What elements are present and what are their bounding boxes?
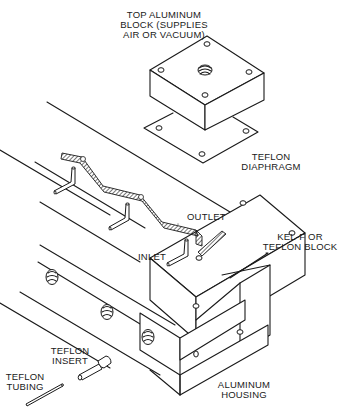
label-kelf-teflon-block: KEL-F OR TEFLON BLOCK bbox=[262, 232, 338, 252]
label-teflon-insert: TEFLON INSERT bbox=[50, 346, 90, 366]
flow-channel bbox=[61, 153, 226, 256]
label-aluminum-housing: ALUMINUM HOUSING bbox=[216, 380, 272, 400]
threaded-side-port-icon bbox=[142, 330, 154, 345]
tube-fitting-2 bbox=[109, 203, 129, 230]
label-inlet: INLET bbox=[138, 252, 166, 262]
label-top-aluminum-block: TOP ALUMINUM BLOCK (SUPPLIES AIR OR VACU… bbox=[114, 10, 214, 40]
label-teflon-tubing: TEFLON TUBING bbox=[5, 372, 45, 392]
label-outlet: OUTLET bbox=[187, 212, 226, 222]
threaded-side-port-icon bbox=[46, 270, 58, 285]
threaded-port-icon bbox=[198, 65, 212, 75]
label-teflon-diaphragm: TEFLON DIAPHRAGM bbox=[238, 152, 304, 172]
threaded-side-port-icon bbox=[101, 305, 113, 320]
tube-fitting-1 bbox=[54, 167, 75, 194]
